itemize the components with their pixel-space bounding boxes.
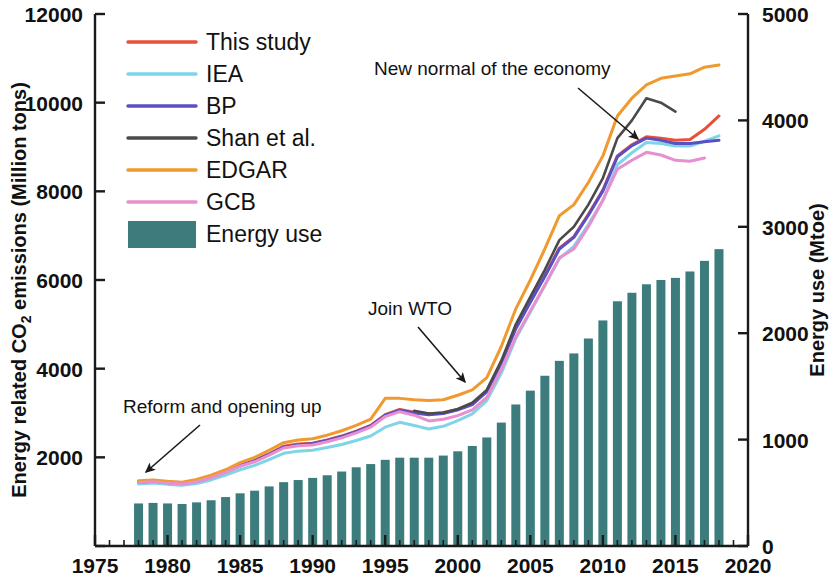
energy-use-bar [221, 497, 230, 546]
energy-use-bar [424, 458, 433, 546]
legend-label-this-study: This study [206, 29, 311, 55]
energy-use-bar [453, 451, 462, 546]
annotation-label: New normal of the economy [374, 58, 611, 79]
x-tick-label: 2000 [434, 554, 481, 577]
y2-tick-label: 5000 [762, 3, 809, 26]
energy-use-bar [381, 460, 390, 546]
x-tick-label: 1980 [144, 554, 191, 577]
x-tick-label: 1990 [289, 554, 336, 577]
energy-use-bar [714, 249, 723, 546]
y-tick-label: 12000 [25, 3, 83, 26]
legend: This studyIEABPShan et al.EDGARGCBEnergy… [128, 29, 322, 248]
legend-swatch-energy-use [128, 221, 196, 248]
legend-label-iea: IEA [206, 61, 244, 87]
figure-root: 2000400060008000100001200001000200030004… [0, 0, 836, 581]
energy-use-bar [642, 284, 651, 546]
left-axis-title: Energy related CO2 emissions (Million to… [8, 82, 34, 498]
right-axis-title: Energy use (Mtoe) [806, 203, 828, 376]
energy-use-bar [134, 503, 143, 546]
energy-use-bar [410, 458, 419, 546]
legend-label-gcb: GCB [206, 189, 256, 215]
energy-use-bar [511, 404, 520, 546]
energy-use-bar [265, 486, 274, 546]
energy-use-bar [700, 261, 709, 546]
energy-use-bar [497, 423, 506, 546]
x-tick-label: 2020 [725, 554, 772, 577]
y-tick-label: 6000 [36, 269, 83, 292]
y-tick-label: 10000 [25, 92, 83, 115]
energy-use-bar [149, 503, 158, 546]
annotation-label: Join WTO [368, 298, 452, 319]
energy-use-bar [685, 271, 694, 546]
energy-use-bar [192, 502, 201, 546]
energy-use-bar [395, 458, 404, 546]
legend-label-shan-et-al: Shan et al. [206, 125, 316, 151]
legend-label-energy-use: Energy use [206, 221, 322, 247]
legend-label-edgar: EDGAR [206, 157, 288, 183]
energy-use-bar [555, 361, 564, 546]
energy-use-bar [279, 482, 288, 546]
energy-use-bar [627, 293, 636, 546]
x-tick-label: 1985 [217, 554, 264, 577]
energy-use-bar [656, 280, 665, 546]
annotation-arrow [578, 88, 638, 139]
energy-use-bar [613, 301, 622, 546]
energy-use-bar [671, 278, 680, 546]
energy-use-bar [540, 376, 549, 546]
legend-label-bp: BP [206, 93, 237, 119]
chart-canvas: 2000400060008000100001200001000200030004… [0, 0, 836, 581]
energy-use-bar [178, 504, 187, 546]
energy-use-bar [294, 480, 303, 546]
y2-tick-label: 4000 [762, 109, 809, 132]
energy-use-bar [366, 464, 375, 546]
y2-tick-label: 1000 [762, 429, 809, 452]
energy-use-bar [598, 320, 607, 546]
energy-use-bar [468, 446, 477, 546]
x-tick-label: 2005 [507, 554, 554, 577]
energy-use-bar [250, 491, 259, 546]
y-tick-label: 4000 [36, 358, 83, 381]
energy-use-bar [207, 500, 216, 546]
energy-use-bar [526, 391, 535, 546]
energy-use-bar [352, 467, 361, 546]
energy-use-bar [584, 339, 593, 546]
y-tick-label: 2000 [36, 446, 83, 469]
annotation-arrow [146, 425, 200, 472]
energy-use-bar [439, 456, 448, 546]
annotation-arrow [418, 327, 465, 382]
energy-use-bar [569, 353, 578, 546]
energy-use-bar [323, 475, 332, 546]
y-tick-label: 8000 [36, 180, 83, 203]
x-tick-label: 1995 [362, 554, 409, 577]
y2-tick-label: 3000 [762, 216, 809, 239]
x-tick-label: 1975 [72, 554, 119, 577]
energy-use-bar [337, 472, 346, 546]
y2-tick-label: 2000 [762, 322, 809, 345]
x-tick-label: 2010 [580, 554, 627, 577]
energy-use-bar [482, 437, 491, 546]
annotation-label: Reform and opening up [123, 396, 322, 417]
x-tick-label: 2015 [652, 554, 699, 577]
